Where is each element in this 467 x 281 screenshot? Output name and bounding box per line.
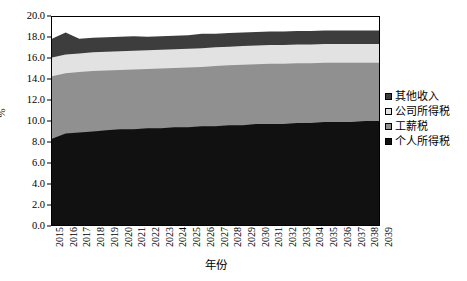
- y-tick-label: 4.0: [32, 179, 45, 189]
- x-tick-label: 2016: [69, 227, 79, 247]
- stacked-area-chart: 20.018.016.014.012.010.08.06.04.02.00.0 …: [0, 0, 467, 281]
- legend-item[interactable]: 工薪税: [385, 120, 450, 133]
- y-tick-label: 8.0: [32, 137, 45, 147]
- x-tick-label: 2022: [151, 227, 161, 247]
- legend-item[interactable]: 个人所得税: [385, 135, 450, 148]
- legend-item[interactable]: 公司所得税: [385, 105, 450, 118]
- plot-area: [51, 16, 380, 226]
- x-tick-label: 2019: [110, 227, 120, 247]
- x-tick-label: 2034: [315, 227, 325, 247]
- legend-swatch-icon: [385, 138, 392, 145]
- x-tick-label: 2038: [370, 227, 380, 247]
- x-tick-label: 2020: [124, 227, 134, 247]
- x-tick-label: 2023: [165, 227, 175, 247]
- x-tick-label: 2015: [55, 227, 65, 247]
- legend-label: 公司所得税: [395, 105, 450, 118]
- y-tick-label: 20.0: [27, 11, 45, 21]
- x-tick-label: 2017: [82, 227, 92, 247]
- y-tick-label: 16.0: [27, 53, 45, 63]
- y-axis-title: %: [0, 108, 7, 117]
- x-tick-label: 2026: [206, 227, 216, 247]
- x-tick-label: 2037: [357, 227, 367, 247]
- y-tick-label: 2.0: [32, 200, 45, 210]
- x-tick-label: 2024: [178, 227, 188, 247]
- legend-label: 工薪税: [395, 120, 428, 133]
- x-tick-label: 2030: [261, 227, 271, 247]
- x-tick-label: 2028: [233, 227, 243, 247]
- legend-label: 其他收入: [395, 90, 439, 103]
- area-series-group: [52, 17, 379, 225]
- x-axis-title: 年份: [51, 256, 380, 272]
- legend-swatch-icon: [385, 93, 392, 100]
- x-tick-label: 2035: [329, 227, 339, 247]
- area-band: [52, 121, 379, 225]
- y-tick-label: 14.0: [27, 74, 45, 84]
- x-tick-label: 2018: [96, 227, 106, 247]
- chart-legend: 其他收入公司所得税工薪税个人所得税: [385, 90, 450, 148]
- x-tick-label: 2027: [220, 227, 230, 247]
- y-tick-label: 10.0: [27, 116, 45, 126]
- legend-swatch-icon: [385, 108, 392, 115]
- legend-item[interactable]: 其他收入: [385, 90, 450, 103]
- y-tick-label: 18.0: [27, 32, 45, 42]
- x-tick-label: 2032: [288, 227, 298, 247]
- x-tick-label: 2031: [274, 227, 284, 247]
- x-tick-label: 2036: [343, 227, 353, 247]
- x-tick-label: 2025: [192, 227, 202, 247]
- legend-swatch-icon: [385, 123, 392, 130]
- x-tick-label: 2021: [137, 227, 147, 247]
- x-tick-label: 2039: [384, 227, 394, 247]
- legend-label: 个人所得税: [395, 135, 450, 148]
- y-tick-label: 6.0: [32, 158, 45, 168]
- x-tick-label: 2029: [247, 227, 257, 247]
- x-tick-label: 2033: [302, 227, 312, 247]
- y-tick-label: 0.0: [32, 221, 45, 231]
- y-axis: 20.018.016.014.012.010.08.06.04.02.00.0: [0, 0, 51, 226]
- y-tick-label: 12.0: [27, 95, 45, 105]
